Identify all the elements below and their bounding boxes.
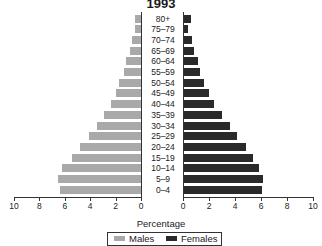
female-bar: [184, 143, 246, 151]
female-bar: [184, 47, 194, 55]
x-axis-label: Percentage: [0, 218, 322, 229]
age-group-label: 60–64: [143, 56, 183, 66]
x-tick-label: 10: [303, 201, 322, 211]
male-bar: [89, 132, 141, 140]
female-bar: [184, 68, 200, 76]
age-group-label: 70–74: [143, 35, 183, 45]
age-group-label: 5–9: [143, 174, 183, 184]
x-tick-label: 2: [106, 201, 126, 211]
x-tick-label: 8: [29, 201, 49, 211]
age-group-label: 20–24: [143, 142, 183, 152]
female-bar: [184, 79, 204, 87]
female-bar: [184, 122, 230, 130]
age-group-label: 65–69: [143, 46, 183, 56]
female-bar: [184, 164, 259, 172]
age-group-label: 30–34: [143, 121, 183, 131]
male-bar: [126, 57, 141, 65]
age-group-label: 55–59: [143, 67, 183, 77]
age-group-label: 15–19: [143, 153, 183, 163]
x-tick-label: 8: [277, 201, 297, 211]
female-bar: [184, 186, 262, 194]
male-bar: [124, 68, 141, 76]
female-bar: [184, 132, 237, 140]
male-bar: [130, 47, 141, 55]
female-bar: [184, 25, 188, 33]
age-group-label: 0–4: [143, 185, 183, 195]
male-bar: [80, 143, 141, 151]
legend-females-label: Females: [181, 233, 217, 245]
female-bar: [184, 154, 253, 162]
age-group-label: 75–79: [143, 24, 183, 34]
x-tick-label: 6: [251, 201, 271, 211]
male-bar: [116, 89, 141, 97]
legend: Males Females: [107, 232, 222, 246]
left-x-axis: [14, 197, 142, 198]
age-group-label: 45–49: [143, 88, 183, 98]
right-x-axis: [183, 197, 314, 198]
age-group-label: 10–14: [143, 163, 183, 173]
females-swatch: [166, 236, 177, 241]
legend-males-label: Males: [129, 233, 154, 245]
x-tick-label: 10: [4, 201, 24, 211]
left-vertical-axis: [141, 12, 142, 197]
chart-title: 1993: [0, 0, 322, 11]
male-bar: [72, 154, 141, 162]
female-bar: [184, 15, 191, 23]
male-bar: [58, 175, 141, 183]
x-tick-label: 2: [199, 201, 219, 211]
female-bar: [184, 175, 263, 183]
x-tick-label: 4: [80, 201, 100, 211]
age-group-label: 35–39: [143, 110, 183, 120]
x-tick-label: 6: [55, 201, 75, 211]
male-bar: [111, 100, 141, 108]
female-bar: [184, 36, 192, 44]
age-group-label: 50–54: [143, 78, 183, 88]
age-group-label: 25–29: [143, 131, 183, 141]
male-bar: [62, 164, 141, 172]
female-bar: [184, 100, 214, 108]
x-tick-label: 0: [173, 201, 193, 211]
x-tick-label: 0: [131, 201, 151, 211]
x-tick-label: 4: [225, 201, 245, 211]
male-bar: [97, 122, 141, 130]
female-bar: [184, 111, 222, 119]
age-group-label: 80+: [143, 14, 183, 24]
male-bar: [119, 79, 141, 87]
female-bar: [184, 57, 198, 65]
age-group-label: 40–44: [143, 99, 183, 109]
male-bar: [104, 111, 141, 119]
males-swatch: [114, 236, 125, 241]
female-bar: [184, 89, 209, 97]
right-vertical-axis: [183, 12, 184, 197]
male-bar: [132, 36, 141, 44]
male-bar: [60, 186, 141, 194]
